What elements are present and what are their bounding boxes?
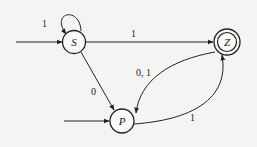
- edge-label-s-s: 1: [42, 18, 47, 29]
- edge-s-p: [81, 52, 114, 110]
- state-p: P: [110, 109, 134, 133]
- state-label-p: P: [118, 115, 126, 127]
- edge-label-s-p: 0: [91, 86, 96, 97]
- state-z: Z: [214, 29, 240, 55]
- state-label-z: Z: [224, 36, 231, 48]
- edge-p-z: [134, 55, 223, 124]
- edge-label-s-z: 1: [131, 28, 136, 39]
- state-label-s: S: [71, 36, 77, 48]
- automaton-diagram: 1 1 0 0, 1 1 S Z P: [0, 0, 257, 147]
- state-s: S: [63, 31, 86, 54]
- edge-label-z-p: 0, 1: [136, 67, 151, 78]
- diagram-svg: 1 1 0 0, 1 1 S Z P: [0, 0, 257, 147]
- edge-label-p-z: 1: [190, 112, 195, 123]
